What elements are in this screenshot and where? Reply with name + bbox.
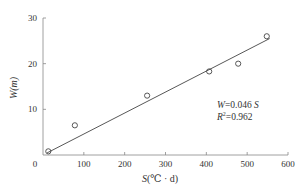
y-tick-label: 10 [28, 104, 38, 114]
r2-rest: =0.962 [226, 112, 253, 122]
y-tick-label: 20 [28, 59, 38, 69]
x-tick-label: 500 [240, 159, 254, 169]
data-point [264, 34, 269, 39]
y-tick-label: 30 [28, 13, 38, 23]
data-point [145, 93, 150, 98]
equation-annotation: W=0.046 S [217, 100, 259, 110]
x-tick-label: 200 [118, 159, 132, 169]
r-squared-annotation: R2=0.962 [216, 111, 253, 122]
x-ticks [84, 152, 288, 155]
data-point [72, 123, 77, 128]
x-axis-title-unit: (℃ · d) [147, 173, 178, 185]
x-tick-label: 0 [33, 159, 38, 169]
regression-line [47, 39, 270, 153]
x-tick-label: 300 [159, 159, 173, 169]
x-tick-label: 600 [281, 159, 295, 169]
x-tick-label: 100 [77, 159, 91, 169]
x-tick-labels: 0100200300400500600 [33, 159, 296, 169]
y-axis-title: W(m) [8, 76, 20, 99]
axes [43, 18, 288, 155]
y-tick-labels: 102030 [28, 13, 38, 114]
x-tick-label: 400 [200, 159, 214, 169]
data-point [236, 61, 241, 66]
x-axis-title: S(℃ · d) [142, 173, 178, 185]
eq-rest: =0.046 [225, 100, 254, 110]
y-ticks [43, 18, 46, 109]
scatter-chart: 0100200300400500600 102030 S(℃ · d) W(m)… [0, 0, 302, 196]
eq-s: S [254, 100, 259, 110]
